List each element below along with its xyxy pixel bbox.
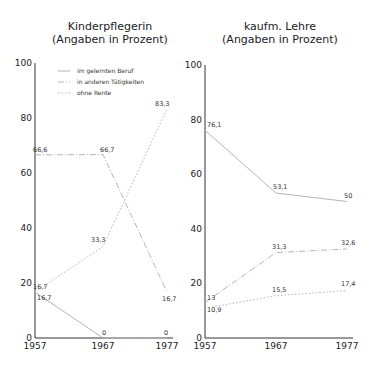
data-label: 76,1: [207, 121, 221, 129]
chart-kaufm-lehre: 02040608010019571967197776,153,1501331,3…: [185, 60, 359, 351]
charts-canvas: 02040608010019571967197716,70066,666,716…: [0, 0, 369, 372]
y-tick-label: 80: [21, 113, 33, 123]
data-label: 66,6: [33, 146, 47, 154]
legend: im gelernten Berufin anderen Tätigkeiten…: [58, 67, 144, 96]
x-tick-label: 1967: [265, 341, 288, 351]
data-label: 33,3: [91, 236, 105, 244]
x-tick-label: 1967: [92, 341, 115, 351]
data-label: 83,3: [155, 100, 169, 108]
series-line: [35, 292, 167, 338]
y-tick-label: 100: [15, 58, 32, 68]
y-tick-label: 20: [21, 278, 33, 288]
series-line: [35, 109, 167, 292]
legend-label: in anderen Tätigkeiten: [77, 78, 144, 86]
data-label: 15,5: [272, 286, 286, 294]
data-label: 16,7: [37, 294, 51, 302]
data-label: 17,4: [341, 280, 355, 288]
data-label: 31,3: [272, 243, 286, 251]
data-label: 16,7: [162, 295, 176, 303]
series-line: [35, 155, 167, 293]
data-label: 66,7: [100, 146, 114, 154]
data-label: 0: [102, 329, 106, 337]
y-tick-label: 100: [185, 60, 202, 70]
data-label: 32,6: [341, 239, 355, 247]
y-tick-label: 60: [21, 168, 33, 178]
x-tick-label: 1977: [156, 341, 179, 351]
legend-label: ohne Rente: [77, 89, 112, 96]
data-label: 10,9: [207, 306, 221, 314]
x-tick-label: 1957: [24, 341, 47, 351]
data-label: 16,7: [33, 283, 47, 291]
y-tick-label: 40: [21, 223, 33, 233]
y-tick-label: 80: [191, 115, 203, 125]
data-label: 53,1: [273, 183, 287, 191]
chart-kinderpflegerin: 02040608010019571967197716,70066,666,716…: [15, 58, 179, 351]
data-label: 13: [207, 294, 215, 302]
legend-label: im gelernten Beruf: [77, 67, 134, 75]
data-label: 0: [164, 329, 168, 337]
y-tick-label: 60: [191, 169, 203, 179]
y-tick-label: 20: [191, 278, 203, 288]
x-tick-label: 1977: [336, 341, 359, 351]
data-label: 50: [344, 192, 352, 200]
series-line: [205, 249, 347, 303]
x-tick-label: 1957: [194, 341, 217, 351]
y-tick-label: 40: [191, 224, 203, 234]
